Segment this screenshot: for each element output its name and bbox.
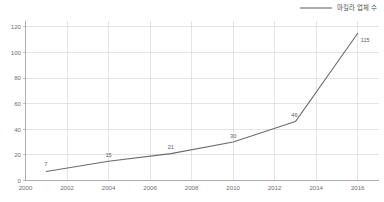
y-axis-tick-label: 40 — [14, 126, 21, 133]
x-axis-tick-label: 2000 — [19, 184, 33, 191]
x-axis-tick-label: 2016 — [351, 184, 365, 191]
series-layer — [46, 33, 357, 171]
chart-canvas: 020406080100120 200020022004200620082010… — [0, 0, 384, 202]
data-point-label: 7 — [44, 161, 47, 167]
x-axis-tick-label: 2006 — [143, 184, 157, 191]
y-axis-tick-label: 20 — [14, 151, 21, 158]
y-axis-tick-labels: 020406080100120 — [11, 23, 22, 184]
legend-label-series-0: 마킬라 업체 수 — [337, 3, 377, 12]
y-axis-tick-label: 80 — [14, 74, 21, 81]
data-point-label: 30 — [230, 133, 236, 139]
grid-layer — [26, 21, 379, 181]
line-chart: 020406080100120 200020022004200620082010… — [0, 0, 384, 202]
data-point-label: 115 — [361, 37, 370, 43]
x-axis-tick-label: 2012 — [268, 184, 282, 191]
y-axis-tick-label: 60 — [14, 100, 21, 107]
data-point-label: 15 — [105, 152, 111, 158]
x-axis-tick-label: 2002 — [60, 184, 74, 191]
y-axis-tick-label: 100 — [11, 49, 22, 56]
x-axis-tick-label: 2008 — [185, 184, 199, 191]
x-axis-tick-label: 2014 — [309, 184, 323, 191]
x-axis-tick-label: 2010 — [226, 184, 240, 191]
chart-legend[interactable]: 마킬라 업체 수 — [300, 3, 377, 12]
x-axis-tick-label: 2004 — [102, 184, 116, 191]
axis-layer — [23, 21, 379, 181]
x-axis-tick-labels: 200020022004200620082010201220142016 — [19, 184, 365, 191]
data-point-label: 21 — [168, 144, 174, 150]
series-line-0 — [46, 33, 357, 171]
data-point-label: 46 — [291, 112, 297, 118]
y-axis-tick-label: 0 — [18, 177, 22, 184]
y-axis-tick-label: 120 — [11, 23, 22, 30]
data-point-labels: 715213046115 — [44, 37, 369, 167]
